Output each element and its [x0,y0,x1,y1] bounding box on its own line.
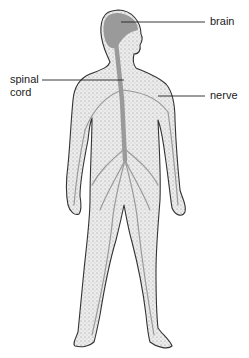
body-diagram [0,0,249,358]
body-silhouette [67,10,186,348]
spinal-cord-label-line1: spinal [10,73,39,86]
spinal-cord-label-line2: cord [10,86,31,99]
brain-label: brain [210,15,234,28]
nerve-label: nerve [210,89,238,102]
